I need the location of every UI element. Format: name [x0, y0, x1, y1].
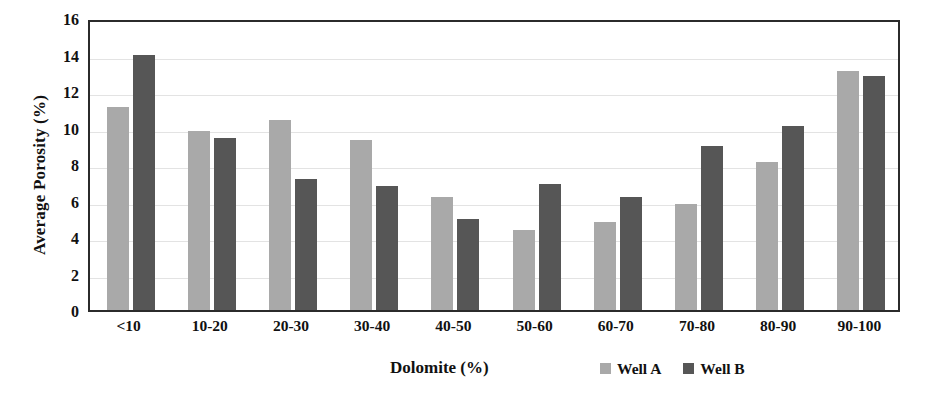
bar-well-a: [188, 131, 210, 310]
plot-area: [88, 20, 900, 312]
y-axis-tick-label: 0: [0, 304, 88, 320]
bar-well-a: [107, 107, 129, 310]
legend: Well AWell B: [600, 361, 745, 377]
bar-well-b: [214, 138, 236, 310]
legend-label: Well B: [700, 361, 744, 377]
y-axis-tick-label: 8: [0, 158, 88, 174]
bar-well-a: [675, 204, 697, 310]
y-axis-tick-label: 10: [0, 122, 88, 138]
bar-well-b: [539, 184, 561, 310]
bar-well-b: [133, 55, 155, 311]
bar-well-b: [457, 219, 479, 310]
bar-well-a: [513, 230, 535, 310]
bar-chart: Average Porosity (%) 0246810121416 <1010…: [0, 0, 928, 393]
x-axis-tick-label: 80-90: [760, 318, 796, 334]
x-axis-title: Dolomite (%): [390, 358, 489, 378]
bar-well-b: [782, 126, 804, 310]
bar-well-a: [350, 140, 372, 310]
y-axis-tick-label: 12: [0, 85, 88, 101]
x-axis-tick-label: 20-30: [273, 318, 309, 334]
y-axis-tick-label: 6: [0, 195, 88, 211]
bar-well-a: [756, 162, 778, 310]
bar-well-b: [620, 197, 642, 310]
bar-well-a: [431, 197, 453, 310]
bar-well-a: [269, 120, 291, 310]
bar-well-b: [863, 76, 885, 310]
x-axis-tick-label: 60-70: [598, 318, 634, 334]
bar-well-b: [701, 146, 723, 310]
bar-well-b: [376, 186, 398, 310]
legend-label: Well A: [617, 361, 661, 377]
bar-well-a: [594, 222, 616, 310]
y-axis-tick-label: 4: [0, 231, 88, 247]
x-axis-tick-label: <10: [116, 318, 140, 334]
bar-well-a: [837, 71, 859, 310]
x-axis-tick-label: 90-100: [837, 318, 881, 334]
bars-layer: [90, 22, 898, 310]
x-axis-tick-label: 10-20: [192, 318, 228, 334]
legend-item: Well B: [683, 361, 744, 377]
legend-swatch-icon: [600, 363, 611, 374]
x-axis-tick-label: 70-80: [679, 318, 715, 334]
y-axis-tick-label: 16: [0, 12, 88, 28]
x-axis-tick-label: 30-40: [354, 318, 390, 334]
legend-item: Well A: [600, 361, 661, 377]
x-axis-tick-label: 50-60: [517, 318, 553, 334]
bar-well-b: [295, 179, 317, 310]
y-axis-tick-label: 14: [0, 49, 88, 65]
legend-swatch-icon: [683, 363, 694, 374]
y-axis-tick-label: 2: [0, 268, 88, 284]
x-axis-tick-label: 40-50: [435, 318, 471, 334]
